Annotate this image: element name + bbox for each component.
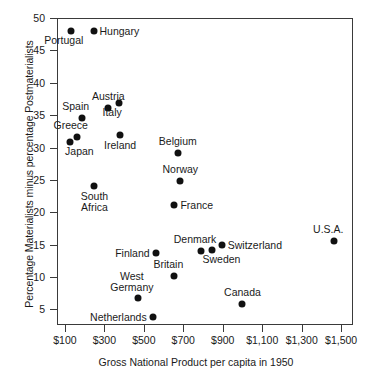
x-tick-label: $500: [132, 334, 155, 346]
data-point-label: Switzerland: [228, 239, 282, 250]
data-point-marker: [331, 237, 338, 244]
y-tick-mark: [50, 50, 57, 51]
x-axis-label: Gross National Product per capita in 195…: [0, 356, 392, 368]
x-tick-label: $300: [93, 334, 116, 346]
y-tick-mark: [50, 115, 57, 116]
x-tick-label: $1,300: [286, 334, 318, 346]
data-point-marker: [149, 313, 156, 320]
data-point-label: Norway: [163, 164, 199, 175]
data-point-label: Hungary: [100, 26, 140, 37]
y-tick-mark: [50, 180, 57, 181]
data-point-marker: [171, 272, 178, 279]
data-point-marker: [117, 131, 124, 138]
x-tick-mark: [104, 325, 105, 332]
data-point-label: Spain: [62, 101, 89, 112]
y-tick-label: 30: [33, 143, 45, 153]
y-tick-label: 45: [33, 45, 45, 55]
data-point-label: Denmark: [174, 234, 217, 245]
x-tick-label: $100: [53, 334, 76, 346]
y-tick-mark: [50, 245, 57, 246]
data-point-label: South Africa: [81, 191, 108, 213]
y-tick-mark: [50, 212, 57, 213]
data-point-marker: [91, 183, 98, 190]
y-tick-label: 20: [33, 207, 45, 217]
data-point-label: Italy: [103, 107, 122, 118]
data-point-marker: [174, 149, 181, 156]
y-tick-label: 35: [33, 110, 45, 120]
plot-area: [57, 18, 353, 325]
x-tick-mark: [302, 325, 303, 332]
y-tick-label: 50: [33, 13, 45, 23]
data-point-label: U.S.A.: [313, 224, 343, 235]
y-tick-mark: [50, 277, 57, 278]
x-tick-label: $900: [211, 334, 234, 346]
y-tick-mark: [50, 18, 57, 19]
data-point-label: Portugal: [44, 35, 83, 46]
y-tick-mark: [50, 83, 57, 84]
y-tick-label: 25: [33, 175, 45, 185]
data-point-label: West Germany: [110, 271, 153, 293]
data-point-marker: [73, 133, 80, 140]
data-point-label: Britain: [154, 259, 184, 270]
x-tick-mark: [223, 325, 224, 332]
x-tick-label: $1,500: [325, 334, 357, 346]
data-point-marker: [152, 250, 159, 257]
data-point-label: Japan: [65, 146, 94, 157]
data-point-marker: [177, 178, 184, 185]
y-tick-label: 15: [33, 240, 45, 250]
data-point-label: France: [180, 199, 213, 210]
data-point-label: Greece: [54, 120, 88, 131]
data-point-label: Canada: [224, 287, 261, 298]
x-tick-mark: [144, 325, 145, 332]
data-point-marker: [134, 295, 141, 302]
data-point-label: Sweden: [203, 254, 241, 265]
x-tick-mark: [262, 325, 263, 332]
y-tick-label: 5: [39, 304, 45, 314]
data-point-label: Finland: [115, 248, 149, 259]
data-point-marker: [239, 300, 246, 307]
data-point-marker: [90, 27, 97, 34]
x-tick-mark: [65, 325, 66, 332]
x-tick-label: $700: [172, 334, 195, 346]
data-point-label: Ireland: [104, 140, 136, 151]
data-point-marker: [218, 241, 225, 248]
x-tick-label: $1,100: [246, 334, 278, 346]
y-tick-mark: [50, 148, 57, 149]
data-point-label: Netherlands: [90, 311, 147, 322]
y-tick-mark: [50, 309, 57, 310]
y-tick-label: 10: [33, 272, 45, 282]
x-tick-mark: [341, 325, 342, 332]
y-tick-label: 40: [33, 78, 45, 88]
data-point-marker: [171, 201, 178, 208]
scatter-plot-figure: Percentage Materialists minus percentage…: [0, 0, 392, 382]
x-tick-mark: [183, 325, 184, 332]
data-point-label: Belgium: [159, 136, 197, 147]
